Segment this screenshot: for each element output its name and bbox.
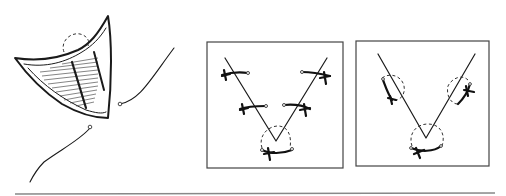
panel-c-frame bbox=[356, 41, 489, 166]
panel-a-flap bbox=[15, 16, 174, 182]
panel-c-suture-guides bbox=[356, 41, 489, 166]
surgical-illustration bbox=[0, 0, 506, 196]
bottom-rule bbox=[15, 193, 495, 194]
panel-b-interrupted-sutures bbox=[207, 42, 343, 168]
